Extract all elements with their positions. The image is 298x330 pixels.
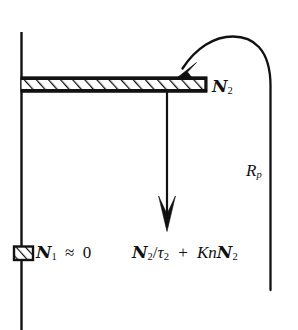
lower-level-value: 0 [83, 243, 92, 262]
energy-level-diagram: N2 N1 ≈ 0 Rp N2/τ2 + KnN2 [0, 0, 298, 330]
pump-rate-label: Rp [246, 161, 262, 181]
decay-operator: + [178, 243, 188, 262]
upper-level-symbol: N [212, 76, 228, 96]
lower-level-relation: ≈ [65, 243, 74, 262]
lower-level-symbol: N [36, 242, 52, 262]
lower-level-hatched-box [14, 247, 33, 261]
decay-term2-symbol: N [217, 242, 233, 262]
upper-level-hatched-bar [21, 77, 207, 92]
lower-level-subscript: 1 [52, 251, 57, 262]
decay-terms-label: N2/τ2 + KnN2 [132, 242, 238, 263]
downward-decay-arrow [159, 92, 176, 232]
upper-level-label: N2 [212, 76, 233, 97]
decay-term2-coefficient: Kn [197, 243, 217, 262]
upper-level-subscript: 2 [228, 85, 233, 96]
pump-rate-symbol: R [246, 161, 256, 180]
decay-term1-numerator: N [132, 242, 148, 262]
decay-term1-denominator-subscript: 2 [164, 251, 169, 262]
pump-rate-subscript: p [256, 169, 261, 180]
decay-term2-subscript: 2 [232, 251, 237, 262]
lower-level-label: N1 ≈ 0 [36, 242, 91, 263]
